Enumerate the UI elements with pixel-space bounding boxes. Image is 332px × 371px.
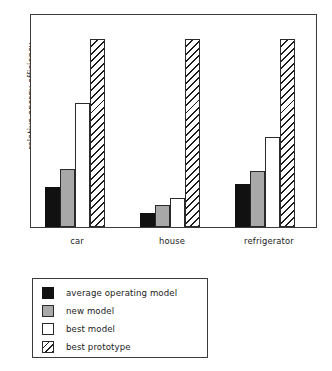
bar-car-best-model xyxy=(75,103,90,227)
legend-label-average-operating-model: average operating model xyxy=(66,288,177,298)
bar-refrigerator-best-model xyxy=(265,137,280,227)
bar-car-average-operating-model xyxy=(45,187,60,227)
legend-swatch-solid-gray-icon xyxy=(42,305,54,317)
x-tick-label-car: car xyxy=(52,236,102,246)
x-tick-label-house: house xyxy=(147,236,197,246)
legend-item-new-model: new model xyxy=(33,302,207,320)
x-tick-label-refrigerator: refrigerator xyxy=(232,236,306,246)
legend-swatch-hatched-icon xyxy=(42,341,54,353)
bar-house-best-model xyxy=(170,198,185,227)
legend-item-average-operating-model: average operating model xyxy=(33,284,207,302)
bar-refrigerator-average-operating-model xyxy=(235,184,250,227)
legend-label-best-model: best model xyxy=(66,324,115,334)
legend-label-best-prototype: best prototype xyxy=(66,342,131,352)
legend-swatch-solid-white-icon xyxy=(42,323,54,335)
bar-house-average-operating-model xyxy=(140,213,155,227)
plot-frame xyxy=(30,14,317,228)
legend-label-new-model: new model xyxy=(66,306,114,316)
bar-house-new-model xyxy=(155,205,170,227)
legend-item-best-model: best model xyxy=(33,320,207,338)
bar-car-best-prototype xyxy=(90,39,105,227)
legend-item-best-prototype: best prototype xyxy=(33,338,207,356)
bar-chart-figure: relative energy efficiency car house ref… xyxy=(0,0,332,371)
bar-house-best-prototype xyxy=(185,39,200,227)
plot-area xyxy=(31,15,316,227)
legend: average operating model new model best m… xyxy=(32,278,208,358)
bar-refrigerator-best-prototype xyxy=(280,39,295,227)
legend-swatch-solid-black-icon xyxy=(42,287,54,299)
bar-refrigerator-new-model xyxy=(250,171,265,227)
bar-car-new-model xyxy=(60,169,75,227)
